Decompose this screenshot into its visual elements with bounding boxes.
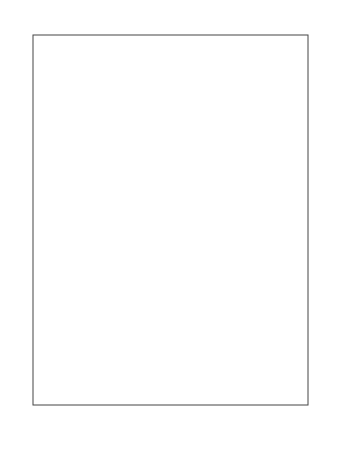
info-box — [72, 270, 290, 360]
polar-chart — [0, 0, 346, 451]
